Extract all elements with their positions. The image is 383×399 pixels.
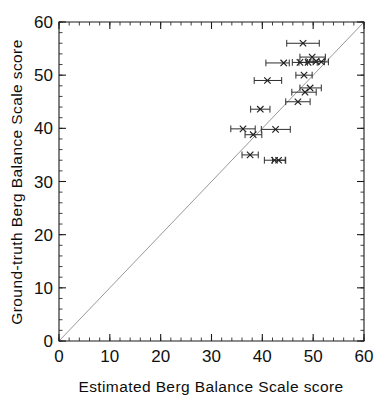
- y-tick-label: 20: [34, 226, 53, 245]
- y-tick-label: 30: [34, 173, 53, 192]
- y-tick-label: 50: [34, 66, 53, 85]
- y-tick-label: 10: [34, 279, 53, 298]
- x-axis-title: Estimated Berg Balance Scale score: [78, 378, 343, 395]
- plot-canvas: 0102030405060 0102030405060 Estimated Be…: [0, 0, 383, 399]
- x-tick-label: 10: [100, 347, 119, 366]
- x-tick-label: 60: [355, 347, 374, 366]
- scatter-plot-figure: 0102030405060 0102030405060 Estimated Be…: [0, 0, 383, 399]
- y-axis-title: Ground-truth Berg Balance Scale score: [8, 39, 25, 324]
- x-tick-label: 50: [304, 347, 323, 366]
- x-tick-label: 30: [202, 347, 221, 366]
- x-tick-label: 0: [54, 347, 63, 366]
- y-tick-label: 60: [34, 13, 53, 32]
- x-tick-label: 20: [151, 347, 170, 366]
- x-tick-label: 40: [253, 347, 272, 366]
- y-tick-label: 0: [44, 332, 53, 351]
- y-tick-label: 40: [34, 119, 53, 138]
